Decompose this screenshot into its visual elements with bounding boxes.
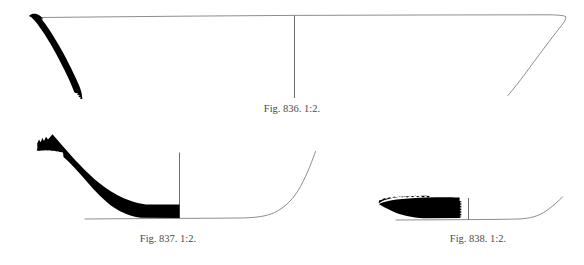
figure-836-caption: Fig. 836. 1:2. <box>264 103 320 114</box>
figure-838-caption: Fig. 838. 1:2. <box>450 233 506 244</box>
figure-837-caption: Fig. 837. 1:2. <box>140 233 196 244</box>
pottery-profile-plate: Fig. 836. 1:2. Fig. 837. 1:2. Fig. 838. … <box>0 0 584 265</box>
plate-background <box>0 0 584 265</box>
